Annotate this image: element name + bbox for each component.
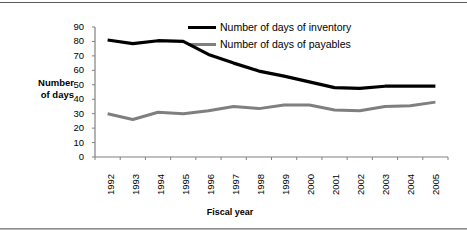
chart-figure: Number of days Fiscal year 90 80 70 60 5… [0,0,467,230]
series-line-inventory [108,40,436,88]
series-line-payables [108,102,436,119]
plot-area [0,0,467,230]
axis-lines [95,27,448,157]
